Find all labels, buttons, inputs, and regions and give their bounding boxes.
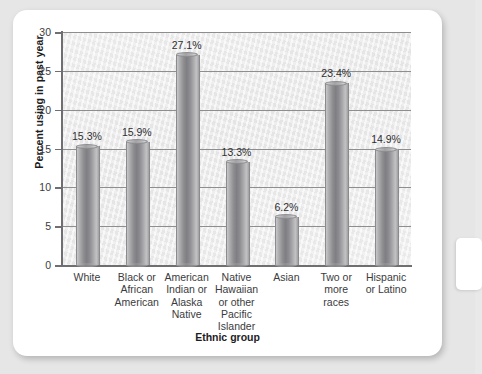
gridline (62, 71, 411, 72)
y-axis-tick-label: 25 (25, 65, 51, 77)
bar-top-ellipse (126, 139, 148, 144)
x-axis-category-line: Pacific (200, 308, 274, 320)
bar-value-label: 23.4% (321, 67, 351, 79)
y-axis-tick (55, 32, 62, 34)
bar-body (126, 142, 150, 265)
bar-value-label: 6.2% (274, 201, 298, 213)
x-axis-category-label: Hispanicor Latino (349, 271, 423, 296)
x-axis-category-line: Hispanic (349, 271, 423, 283)
y-axis-tick-label: 20 (25, 104, 51, 116)
bar-bottom-cap (325, 263, 347, 267)
x-axis-title: Ethnic group (13, 331, 442, 343)
bar-body (226, 162, 250, 265)
bar[interactable] (375, 149, 397, 265)
x-axis-category-line: Hawaiian (200, 283, 274, 295)
bar-value-label: 27.1% (172, 39, 202, 51)
bar-top-ellipse (375, 147, 397, 152)
y-axis-tick-label: 15 (25, 143, 51, 155)
x-axis-category-line: or other (200, 296, 274, 308)
bar-body (176, 55, 200, 265)
bar-value-label: 15.3% (72, 130, 102, 142)
x-axis-category-line: Islander (200, 320, 274, 332)
y-axis-tick-label: 0 (25, 259, 51, 271)
bar[interactable] (176, 55, 198, 265)
bar-top-ellipse (76, 144, 98, 149)
y-axis-tick-label: 5 (25, 220, 51, 232)
bar-value-label: 14.9% (371, 133, 401, 145)
bar[interactable] (325, 83, 347, 265)
bar-value-label: 13.3% (222, 146, 252, 158)
y-axis-tick-label: 30 (25, 26, 51, 38)
bar-body (325, 83, 349, 265)
y-axis-tick-label: 10 (25, 181, 51, 193)
bar[interactable] (126, 142, 148, 265)
bar-bottom-cap (226, 263, 248, 267)
y-axis-tick (55, 110, 62, 112)
bar-body (375, 149, 399, 265)
bar[interactable] (76, 146, 98, 265)
bar-value-label: 15.9% (122, 126, 152, 138)
x-axis-category-line: or Latino (349, 283, 423, 295)
y-axis-tick (55, 187, 62, 189)
y-axis-tick (55, 265, 62, 267)
bar-top-ellipse (325, 81, 347, 86)
bar[interactable] (226, 162, 248, 265)
gridline (62, 110, 411, 111)
bar-chart: Percent using in past year 051015202530 … (13, 10, 442, 356)
y-axis-tick (55, 71, 62, 73)
gridline (62, 32, 411, 33)
y-axis-tick (55, 149, 62, 151)
bar-bottom-cap (375, 263, 397, 267)
bar-bottom-cap (126, 263, 148, 267)
bar-bottom-cap (76, 263, 98, 267)
bar-body (275, 217, 299, 265)
bar-top-ellipse (176, 52, 198, 57)
x-axis-category-line: races (299, 296, 373, 308)
bar[interactable] (275, 217, 297, 265)
y-axis-tick-labels: 051015202530 (21, 10, 51, 356)
bar-bottom-cap (176, 263, 198, 267)
y-axis-tick (55, 226, 62, 228)
page-edge-artifact (456, 238, 482, 290)
bar-body (76, 146, 100, 265)
